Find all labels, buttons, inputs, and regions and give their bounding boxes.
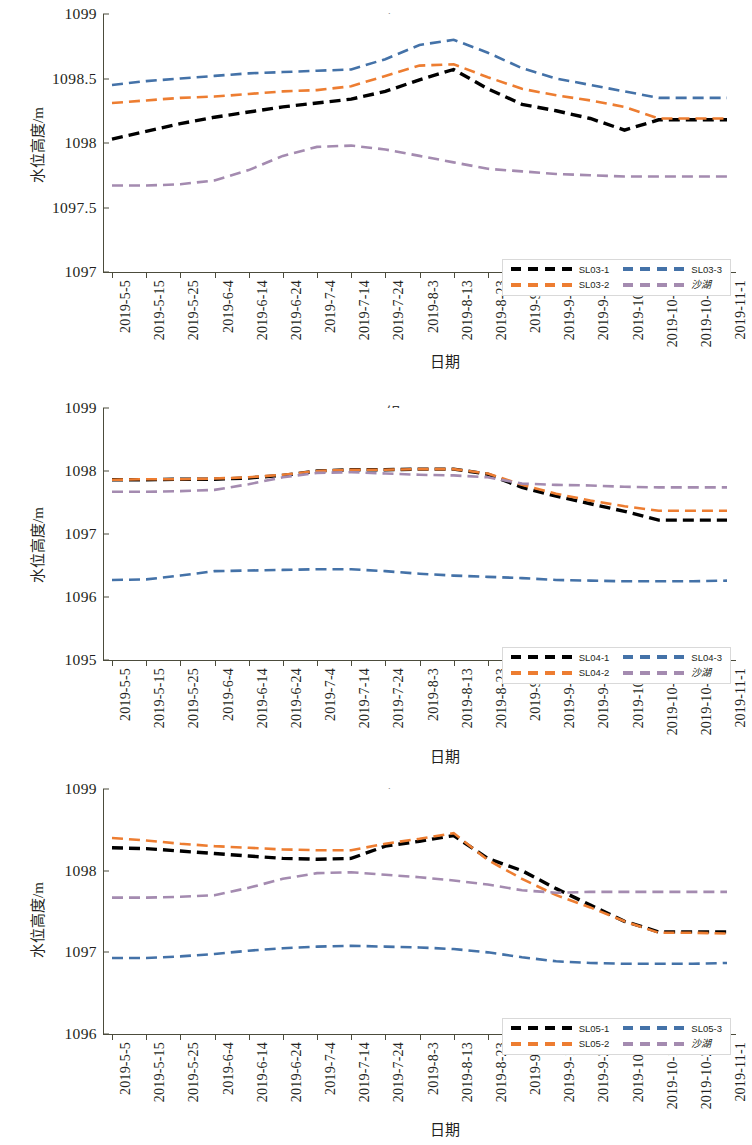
x-axis-tick-label: 2019-6-14 — [255, 280, 271, 340]
chart-panel-sl05: 水位高度/m SL05组 10961097109810992019-5-5201… — [0, 775, 752, 1145]
legend-swatch-icon — [511, 655, 573, 659]
x-axis-tick-mark — [146, 272, 147, 278]
series-line — [112, 833, 727, 933]
x-axis-tick-mark — [146, 660, 147, 666]
x-axis-tick-label: 2019-6-14 — [255, 1042, 271, 1102]
legend-item[interactable]: SL05-3 — [623, 1024, 722, 1034]
legend-item[interactable]: SL03-1 — [511, 265, 610, 275]
y-axis-tick-label: 1098 — [64, 862, 103, 880]
x-axis-tick-label: 2019-8-3 — [426, 1042, 442, 1095]
x-axis-tick-label: 2019-11-1 — [733, 280, 749, 340]
x-axis-tick-mark — [351, 272, 352, 278]
y-axis-tick-label: 1098 — [64, 134, 103, 152]
chart-legend[interactable]: SL05-1SL05-3SL05-2沙湖 — [502, 1018, 731, 1056]
x-axis-tick-label: 2019-8-13 — [460, 280, 476, 340]
legend-item[interactable]: SL04-3 — [623, 653, 722, 663]
legend-swatch-icon — [511, 1026, 573, 1030]
x-axis-tick-mark — [420, 272, 421, 278]
series-line — [112, 64, 727, 118]
x-axis-tick-mark — [146, 1034, 147, 1040]
series-line — [112, 569, 727, 581]
series-line — [112, 69, 727, 139]
x-axis-title: 日期 — [430, 350, 460, 371]
x-axis-tick-mark — [454, 1034, 455, 1040]
x-axis-tick-mark — [488, 660, 489, 666]
series-line — [112, 836, 727, 932]
legend-swatch-icon — [623, 283, 685, 287]
legend-swatch-icon — [623, 671, 685, 675]
x-axis-tick-label: 2019-6-24 — [289, 1042, 305, 1102]
y-axis-tick-label: 1097 — [64, 525, 103, 543]
x-axis-tick-mark — [385, 1034, 386, 1040]
x-axis-tick-label: 2019-6-4 — [221, 280, 237, 333]
x-axis-tick-label: 2019-6-24 — [289, 280, 305, 340]
plot-area: 10971097.510981098.510992019-5-52019-5-1… — [103, 14, 736, 272]
legend-label: 沙湖 — [691, 280, 711, 290]
x-axis-tick-mark — [112, 272, 113, 278]
legend-label: SL04-3 — [691, 653, 722, 663]
x-axis-tick-mark — [180, 660, 181, 666]
x-axis-tick-mark — [112, 1034, 113, 1040]
chart-legend[interactable]: SL04-1SL04-3SL04-2沙湖 — [502, 647, 731, 685]
legend-label: SL03-3 — [691, 265, 722, 275]
x-axis-tick-label: 2019-6-24 — [289, 668, 305, 728]
legend-label: SL04-1 — [579, 653, 610, 663]
x-axis-tick-mark — [454, 660, 455, 666]
x-axis-tick-label: 2019-6-14 — [255, 668, 271, 728]
legend-item[interactable]: SL05-1 — [511, 1024, 610, 1034]
x-axis-tick-label: 2019-11-1 — [733, 668, 749, 728]
legend-label: 沙湖 — [691, 668, 711, 678]
chart-legend[interactable]: SL03-1SL03-3SL03-2沙湖 — [502, 259, 731, 297]
x-axis-tick-mark — [385, 660, 386, 666]
x-axis-tick-mark — [317, 272, 318, 278]
x-axis-tick-label: 2019-5-5 — [118, 1042, 134, 1095]
y-axis-tick-label: 1098 — [64, 462, 103, 480]
x-axis-tick-label: 2019-7-4 — [323, 1042, 339, 1095]
legend-item[interactable]: SL05-2 — [511, 1039, 610, 1049]
legend-item[interactable]: 沙湖 — [623, 668, 722, 678]
x-axis-title: 日期 — [430, 745, 460, 766]
x-axis-tick-label: 2019-6-4 — [221, 1042, 237, 1095]
x-axis-tick-mark — [249, 272, 250, 278]
y-axis-tick-label: 1098.5 — [52, 70, 103, 88]
series-line — [112, 872, 727, 897]
legend-label: SL05-1 — [579, 1024, 610, 1034]
y-axis-tick-label: 1095 — [64, 651, 103, 669]
legend-item[interactable]: SL03-3 — [623, 265, 722, 275]
x-axis-tick-mark — [283, 272, 284, 278]
y-axis-title: 水位高度/m — [0, 835, 26, 1005]
series-layer — [103, 789, 736, 1034]
x-axis-tick-mark — [215, 660, 216, 666]
x-axis-tick-label: 2019-5-25 — [186, 280, 202, 340]
legend-item[interactable]: SL04-1 — [511, 653, 610, 663]
legend-item[interactable]: SL04-2 — [511, 668, 610, 678]
x-axis-tick-mark — [488, 272, 489, 278]
x-axis-title: 日期 — [430, 1118, 460, 1139]
legend-item[interactable]: SL03-2 — [511, 280, 610, 290]
y-axis-tick-label: 1097 — [64, 943, 103, 961]
x-axis-tick-label: 2019-7-24 — [391, 1042, 407, 1102]
x-axis-tick-mark — [283, 1034, 284, 1040]
x-axis-tick-mark — [454, 272, 455, 278]
x-axis-tick-label: 2019-7-14 — [357, 280, 373, 340]
series-line — [112, 946, 727, 964]
x-axis-tick-label: 2019-8-13 — [460, 1042, 476, 1102]
series-line — [112, 146, 727, 186]
y-axis-title: 水位高度/m — [0, 60, 26, 230]
x-axis-tick-mark — [215, 272, 216, 278]
y-axis-tick-label: 1099 — [64, 5, 103, 23]
x-axis-tick-label: 2019-8-3 — [426, 280, 442, 333]
legend-item[interactable]: 沙湖 — [623, 1039, 722, 1049]
legend-swatch-icon — [511, 671, 573, 675]
chart-panel-sl03: 水位高度/m SL03组 10971097.510981098.51099201… — [0, 0, 752, 380]
legend-label: SL05-3 — [691, 1024, 722, 1034]
legend-swatch-icon — [623, 1026, 685, 1030]
legend-swatch-icon — [623, 655, 685, 659]
x-axis-tick-mark — [420, 1034, 421, 1040]
x-axis-tick-mark — [351, 1034, 352, 1040]
x-axis-tick-label: 2019-8-13 — [460, 668, 476, 728]
legend-label: SL03-1 — [579, 265, 610, 275]
x-axis-tick-label: 2019-5-25 — [186, 668, 202, 728]
x-axis-tick-mark — [180, 272, 181, 278]
legend-item[interactable]: 沙湖 — [623, 280, 722, 290]
